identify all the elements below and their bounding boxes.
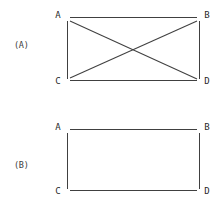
graph-figure-canvas: (A) A B C D (B) [0, 0, 218, 204]
vertex-label-d: D [204, 76, 209, 86]
panel-a-edges [68, 18, 200, 81]
figure-page: (A) A B C D (B) [0, 0, 218, 204]
vertex-label-b: B [204, 10, 209, 20]
panel-a-caption: (A) [14, 40, 28, 50]
vertex-label-c: C [55, 186, 60, 196]
panel-b-caption: (B) [14, 160, 28, 170]
vertex-label-c: C [55, 76, 60, 86]
vertex-label-a: A [55, 10, 61, 20]
panel-b-vertex-labels: A B C D [55, 122, 209, 196]
panel-b: (B) A B C D [14, 122, 210, 196]
panel-a: (A) A B C D [14, 10, 210, 86]
vertex-label-a: A [55, 122, 61, 132]
panel-b-edges [68, 130, 200, 191]
vertex-label-d: D [204, 186, 209, 196]
vertex-label-b: B [204, 122, 209, 132]
